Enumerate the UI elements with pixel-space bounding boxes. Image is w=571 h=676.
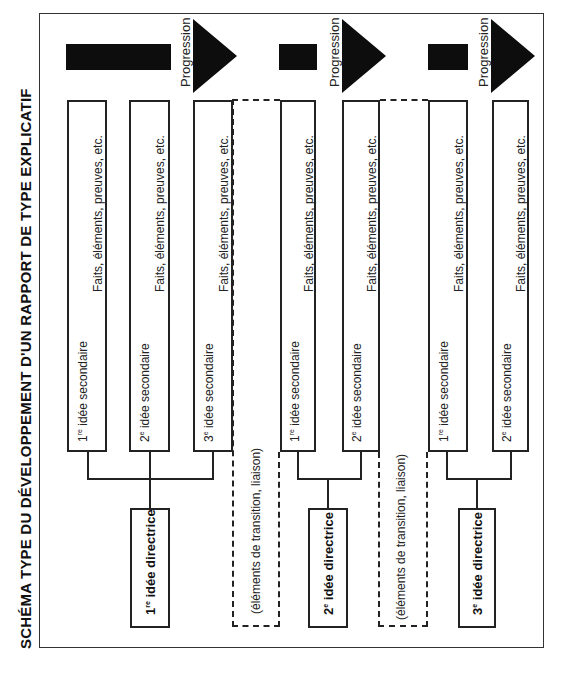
transition-label: (éléments de transition, liaison) — [394, 454, 408, 620]
progression-bar-1 — [66, 44, 171, 70]
progression-arrow-1-icon — [193, 19, 237, 93]
facts-label: Faits, éléments, preuves, etc. — [365, 135, 379, 292]
group3-secondary-1-box: 1re idée secondaire Faits, éléments, pre… — [428, 100, 468, 452]
connector — [212, 452, 214, 479]
group1-secondary-3-box: 3e idée secondaire Faits, éléments, preu… — [193, 100, 233, 452]
group3-directrice-box: 3e idée directrice — [458, 508, 496, 628]
directrice-label: 1re idée directrice — [143, 509, 158, 615]
connector — [476, 478, 478, 509]
group1-directrice-box: 1re idée directrice — [130, 508, 170, 628]
progression-label-3: Progression — [476, 18, 491, 87]
group2-directrice-box: 2e idée directrice — [308, 508, 348, 628]
facts-label: Faits, éléments, preuves, etc. — [452, 135, 466, 292]
transition-1-right — [278, 452, 280, 627]
secondary-label: 2e idée secondaire — [500, 343, 514, 442]
connector — [360, 452, 362, 479]
connector — [297, 452, 299, 479]
frame-top-border — [39, 13, 544, 14]
transition-2-left — [378, 452, 380, 627]
progression-arrow-2-icon — [342, 19, 386, 93]
directrice-label: 3e idée directrice — [470, 512, 485, 615]
transition-1-box: (éléments de transition, liaison) — [232, 99, 280, 627]
progression-arrow-3-icon — [491, 19, 535, 93]
group1-secondary-1-box: 1re idée secondaire Faits, éléments, pre… — [67, 100, 107, 452]
secondary-label: 2e idée secondaire — [138, 343, 152, 442]
secondary-label: 2e idée secondaire — [350, 343, 364, 442]
facts-label: Faits, éléments, preuves, etc. — [302, 135, 316, 292]
connector — [446, 478, 512, 480]
connector — [297, 478, 362, 480]
progression-label-1: Progression — [178, 18, 193, 87]
connector — [327, 478, 329, 509]
transition-1-top — [232, 99, 280, 101]
transition-2-bottom — [378, 625, 428, 627]
group2-secondary-2-box: 2e idée secondaire Faits, éléments, preu… — [342, 100, 380, 452]
diagram-title: SCHÉMA TYPE DU DÉVELOPPEMENT D'UN RAPPOR… — [17, 88, 34, 649]
secondary-label: 3e idée secondaire — [202, 343, 216, 442]
group2-secondary-1-box: 1re idée secondaire Faits, éléments, pre… — [280, 100, 316, 452]
frame-left-border — [39, 13, 40, 648]
secondary-label: 1re idée secondaire — [437, 341, 451, 442]
transition-label: (éléments de transition, liaison) — [249, 448, 263, 614]
facts-label: Faits, éléments, preuves, etc. — [217, 135, 231, 292]
secondary-label: 1re idée secondaire — [288, 341, 302, 442]
group1-secondary-2-box: 2e idée secondaire Faits, éléments, preu… — [129, 100, 170, 452]
secondary-label: 1re idée secondaire — [76, 341, 90, 442]
connector — [87, 452, 89, 479]
directrice-label: 2e idée directrice — [321, 512, 336, 615]
connector — [510, 452, 512, 479]
transition-2-top — [380, 99, 428, 101]
connector — [446, 452, 448, 479]
group3-secondary-2-box: 2e idée secondaire Faits, éléments, preu… — [492, 100, 529, 452]
connector — [87, 478, 214, 480]
facts-label: Faits, éléments, preuves, etc. — [514, 135, 528, 292]
frame-right-border — [543, 13, 544, 648]
transition-2-right — [426, 452, 428, 627]
facts-label: Faits, éléments, preuves, etc. — [91, 135, 105, 292]
facts-label: Faits, éléments, preuves, etc. — [153, 135, 167, 292]
progression-bar-2 — [279, 44, 317, 70]
frame-bottom-border — [39, 647, 544, 648]
progression-bar-3 — [428, 44, 468, 70]
connector — [149, 452, 151, 509]
progression-label-2: Progression — [327, 18, 342, 87]
